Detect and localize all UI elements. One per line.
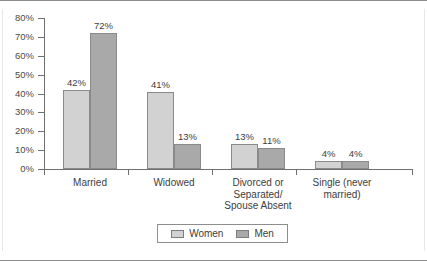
bar-value-label: 11% [252, 135, 291, 146]
x-axis-category-label: Married [45, 177, 135, 189]
y-axis-tick-label: 40% [0, 89, 34, 99]
y-axis-tick [38, 75, 44, 76]
bar [258, 148, 285, 169]
x-axis-category-label: Divorced orSeparated/Spouse Absent [213, 177, 303, 212]
y-axis-tick [38, 112, 44, 113]
legend-item: Women [171, 228, 223, 239]
x-axis-line [38, 169, 413, 170]
y-axis-tick-label-text: 30% [0, 107, 34, 117]
x-axis-category-label-line: Divorced or [213, 177, 303, 189]
y-axis-tick [38, 94, 44, 95]
bar [174, 144, 201, 169]
men-swatch [236, 230, 249, 238]
y-axis-tick [38, 150, 44, 151]
bar-value-label: 4% [336, 148, 375, 159]
legend-item-label: Men [254, 228, 273, 239]
x-axis-tick [128, 170, 129, 175]
y-axis-tick-label-text: 50% [0, 70, 34, 80]
bar-value-label: 72% [84, 20, 123, 31]
bar [90, 33, 117, 169]
y-axis-tick [38, 131, 44, 132]
y-axis-tick-label: 30% [0, 107, 34, 117]
y-axis-tick-label-text: 0% [0, 164, 34, 174]
y-axis-line [44, 18, 45, 170]
bar [63, 90, 90, 169]
plot-area: 80%70%60%50%40%30%20%10%0% 42%72%41%13%1… [0, 1, 427, 261]
bar [231, 144, 258, 169]
x-axis-category-label-line: Spouse Absent [213, 200, 303, 212]
x-axis-category-label-line: married) [297, 189, 387, 201]
x-axis-category-label-line: Separated/ [213, 189, 303, 201]
x-axis-tick [44, 170, 45, 175]
y-axis-tick-label: 70% [0, 32, 34, 42]
bar [147, 92, 174, 169]
x-axis-category-label: Widowed [129, 177, 219, 189]
y-axis-tick-label-text: 80% [0, 13, 34, 23]
chart-figure: 80%70%60%50%40%30%20%10%0% 42%72%41%13%1… [0, 0, 427, 261]
y-axis-tick-label: 10% [0, 145, 34, 155]
legend-item-label: Women [189, 228, 223, 239]
bar [315, 161, 342, 169]
y-axis-tick-label-text: 40% [0, 89, 34, 99]
bar-value-label: 41% [141, 79, 180, 90]
y-axis-tick-label-text: 20% [0, 126, 34, 136]
x-axis-tick [296, 170, 297, 175]
y-axis-tick [38, 37, 44, 38]
x-axis-category-label-line: Married [45, 177, 135, 189]
y-axis-tick-label: 50% [0, 70, 34, 80]
y-axis-tick [38, 18, 44, 19]
women-swatch [171, 230, 184, 238]
y-axis-tick-label: 20% [0, 126, 34, 136]
x-axis-category-label-line: Single (never [297, 177, 387, 189]
y-axis-tick-label-text: 60% [0, 51, 34, 61]
x-axis-category-label-line: Widowed [129, 177, 219, 189]
y-axis-tick-label: 60% [0, 51, 34, 61]
x-axis-category-label: Single (nevermarried) [297, 177, 387, 200]
y-axis-tick [38, 56, 44, 57]
chart-legend: WomenMen [157, 224, 288, 243]
legend-item: Men [236, 228, 273, 239]
bar-value-label: 13% [168, 131, 207, 142]
y-axis-tick-label: 0% [0, 164, 34, 174]
y-axis-tick-label: 80% [0, 13, 34, 23]
x-axis-tick [412, 170, 413, 175]
x-axis-tick [212, 170, 213, 175]
bar [342, 161, 369, 169]
y-axis-tick-label-text: 70% [0, 32, 34, 42]
y-axis-tick-label-text: 10% [0, 145, 34, 155]
